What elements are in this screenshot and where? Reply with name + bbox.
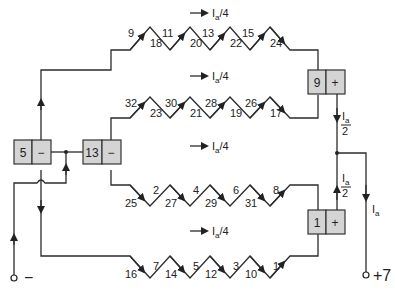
svg-text:1: 1 — [314, 216, 321, 230]
coil-label: 10 — [245, 268, 257, 280]
svg-text:Ia: Ia — [342, 110, 350, 125]
svg-text:2: 2 — [342, 187, 348, 199]
coil-label: 18 — [150, 37, 162, 49]
coil-label: 1 — [273, 260, 279, 272]
brush-1: 1 + — [308, 210, 345, 234]
svg-text:Ia/4: Ia/4 — [212, 225, 229, 240]
coil-label: 3 — [233, 260, 239, 272]
coil-label: 32 — [125, 97, 137, 109]
coil-label: 23 — [150, 107, 162, 119]
current-arrow-path-2: Ia/4 — [190, 70, 229, 85]
coil-label: 20 — [190, 37, 202, 49]
half-current-label-bottom: Ia 2 — [341, 172, 351, 199]
coil-label: 2 — [153, 184, 159, 196]
current-arrow-path-3: Ia/4 — [190, 140, 229, 155]
negative-terminal — [11, 275, 17, 281]
coil-label: 5 — [193, 260, 199, 272]
brush-13: 13 − — [83, 140, 121, 164]
svg-text:Ia/4: Ia/4 — [212, 7, 229, 22]
negative-bus — [11, 150, 83, 281]
positive-bus — [335, 94, 369, 278]
current-arrow-path-4: Ia/4 — [190, 225, 229, 240]
svg-text:2: 2 — [342, 125, 348, 137]
brush-5: 5 − — [14, 140, 51, 164]
half-current-label-top: Ia 2 — [341, 110, 351, 137]
svg-text:Ia/4: Ia/4 — [212, 70, 229, 85]
brush-9: 9 + — [308, 70, 345, 94]
svg-text:Ia: Ia — [342, 172, 350, 187]
coil-label: 19 — [230, 107, 242, 119]
svg-text:13: 13 — [85, 146, 99, 160]
svg-text:Ia/4: Ia/4 — [212, 140, 229, 155]
coil-label: 8 — [273, 184, 279, 196]
svg-text:+: + — [331, 216, 338, 230]
coil-label: 15 — [242, 27, 254, 39]
svg-text:9: 9 — [314, 76, 321, 90]
coil-label: 14 — [165, 268, 177, 280]
coil-label: 13 — [202, 27, 214, 39]
coil-label: 24 — [270, 37, 282, 49]
positive-terminal — [363, 272, 369, 278]
coil-label: 28 — [205, 97, 217, 109]
svg-text:5: 5 — [20, 146, 27, 160]
current-arrow-path-1: Ia/4 — [190, 7, 229, 22]
coil-label: 17 — [270, 107, 282, 119]
coil-label: 4 — [193, 184, 199, 196]
negative-terminal-label: − — [24, 269, 33, 286]
coil-label: 21 — [190, 107, 202, 119]
coil-label: 31 — [245, 197, 257, 209]
coil-label: 26 — [245, 97, 257, 109]
coil-label: 16 — [125, 268, 137, 280]
coil-label: 6 — [233, 184, 239, 196]
svg-text:+: + — [331, 76, 338, 90]
coil-label: 30 — [165, 97, 177, 109]
coil-label: 12 — [205, 268, 217, 280]
coil-label: 11 — [162, 27, 173, 39]
svg-text:−: − — [107, 146, 114, 160]
coil-label: 29 — [205, 197, 217, 209]
coil-label: 7 — [153, 260, 159, 272]
total-current-label: Ia — [372, 203, 380, 218]
coil-label: 9 — [128, 27, 134, 39]
positive-terminal-label: +7 — [373, 267, 391, 284]
svg-text:Ia: Ia — [372, 203, 380, 218]
coil-label: 27 — [165, 197, 177, 209]
coil-label: 22 — [230, 37, 242, 49]
coil-label: 25 — [125, 197, 137, 209]
svg-text:−: − — [37, 146, 44, 160]
lap-winding-diagram: 9 11 13 15 18 20 22 24 Ia/4 32 30 28 26 … — [0, 0, 395, 291]
